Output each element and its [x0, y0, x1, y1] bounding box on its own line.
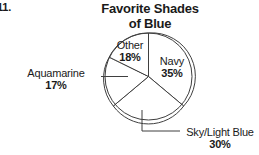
pie-label-sky-light-blue-name: Sky/Light Blue: [182, 126, 258, 138]
pie-label-navy: Navy 35%: [152, 55, 192, 79]
pie-label-other-name: Other: [110, 39, 150, 51]
pie-label-aquamarine-percent: 17%: [12, 79, 100, 91]
pie-label-navy-name: Navy: [152, 55, 192, 67]
pie-label-aquamarine: Aquamarine 17%: [12, 67, 100, 91]
pie-label-other-percent: 18%: [110, 51, 150, 63]
pie-chart-figure: 11. Favorite Shades of Blue Other 18% Na…: [0, 0, 259, 155]
pie-label-sky-light-blue-percent: 30%: [182, 138, 258, 150]
pie-label-sky-light-blue: Sky/Light Blue 30%: [182, 126, 258, 150]
pie-label-other: Other 18%: [110, 39, 150, 63]
pie-label-aquamarine-name: Aquamarine: [12, 67, 100, 79]
pie-label-navy-percent: 35%: [152, 67, 192, 79]
